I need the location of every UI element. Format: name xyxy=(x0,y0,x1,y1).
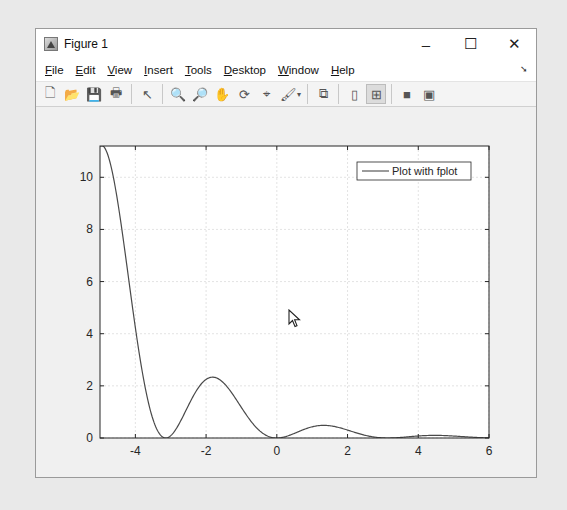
menu-mnemonic: H xyxy=(331,64,339,76)
toolbar-separator xyxy=(162,84,163,104)
y-tick-label: 4 xyxy=(86,327,93,341)
toolbar-separator xyxy=(131,84,132,104)
show-plot-tools-icon[interactable]: ⊞ xyxy=(366,84,386,104)
data-cursor-icon[interactable]: ⌖ xyxy=(256,84,276,104)
toolbar-separator xyxy=(338,84,339,104)
legend[interactable]: Plot with fplot xyxy=(357,162,471,180)
axes[interactable]: -4-202460246810Plot with fplot xyxy=(36,107,536,477)
window-controls: – ☐ ✕ xyxy=(404,29,536,59)
x-tick-label: 6 xyxy=(486,444,493,458)
menu-file[interactable]: File xyxy=(45,64,64,76)
menu-label: elp xyxy=(339,64,354,76)
menu-help[interactable]: Help xyxy=(331,64,355,76)
figure-canvas[interactable]: -4-202460246810Plot with fplot xyxy=(36,107,536,477)
print-figure-icon[interactable]: 🖶 xyxy=(106,84,126,104)
menu-label: ile xyxy=(52,64,64,76)
y-tick-label: 2 xyxy=(86,379,93,393)
y-tick-label: 0 xyxy=(86,431,93,445)
menu-insert[interactable]: Insert xyxy=(144,64,173,76)
close-button[interactable]: ✕ xyxy=(492,29,536,59)
title-bar[interactable]: Figure 1 – ☐ ✕ xyxy=(36,29,536,59)
menu-mnemonic: V xyxy=(107,64,114,76)
menu-tools[interactable]: Tools xyxy=(185,64,212,76)
menu-view[interactable]: View xyxy=(107,64,132,76)
menu-window[interactable]: Window xyxy=(278,64,319,76)
dropdown-arrow-icon[interactable]: ▾ xyxy=(297,90,301,99)
x-tick-label: 4 xyxy=(415,444,422,458)
menu-edit[interactable]: Edit xyxy=(76,64,96,76)
menu-desktop[interactable]: Desktop xyxy=(224,64,266,76)
new-figure-icon[interactable]: 🗋 xyxy=(40,84,60,104)
link-plot-icon[interactable]: ⧉ xyxy=(313,84,333,104)
menu-label: dit xyxy=(83,64,95,76)
figure-toolbar: 🗋📂💾🖶↖🔍🔎✋⟳⌖🖌▾⧉▯⊞■▣ xyxy=(36,81,536,107)
maximize-button[interactable]: ☐ xyxy=(448,29,492,59)
toolbar-separator xyxy=(391,84,392,104)
legend-icon[interactable]: ▣ xyxy=(419,84,439,104)
pan-icon[interactable]: ✋ xyxy=(212,84,232,104)
edit-plot-icon[interactable]: ↖ xyxy=(137,84,157,104)
menu-mnemonic: D xyxy=(224,64,232,76)
menu-bar: File Edit View Insert Tools Desktop Wind… xyxy=(36,59,536,81)
colorbar-icon[interactable]: ■ xyxy=(397,84,417,104)
zoom-in-icon[interactable]: 🔍 xyxy=(168,84,188,104)
hide-plot-tools-icon[interactable]: ▯ xyxy=(344,84,364,104)
y-tick-label: 6 xyxy=(86,275,93,289)
menu-label: esktop xyxy=(232,64,266,76)
x-tick-label: 0 xyxy=(273,444,280,458)
dock-arrow-icon[interactable]: ➘ xyxy=(520,64,528,74)
rotate-3d-icon[interactable]: ⟳ xyxy=(234,84,254,104)
mouse-pointer-icon xyxy=(288,309,302,329)
brush-icon[interactable]: 🖌 xyxy=(278,84,298,104)
y-tick-label: 10 xyxy=(80,170,94,184)
y-tick-label: 8 xyxy=(86,222,93,236)
figure-window: Figure 1 – ☐ ✕ File Edit View Insert Too… xyxy=(35,28,537,478)
x-tick-label: 2 xyxy=(344,444,351,458)
menu-mnemonic: W xyxy=(278,64,289,76)
zoom-out-icon[interactable]: 🔎 xyxy=(190,84,210,104)
minimize-button[interactable]: – xyxy=(404,29,448,59)
menu-label: ools xyxy=(191,64,212,76)
menu-label: nsert xyxy=(147,64,173,76)
matlab-figure-icon xyxy=(44,37,58,51)
x-tick-label: -4 xyxy=(130,444,141,458)
legend-label: Plot with fplot xyxy=(392,165,457,177)
menu-label: iew xyxy=(115,64,132,76)
plot-background xyxy=(100,146,489,438)
menu-mnemonic: F xyxy=(45,64,52,76)
window-title: Figure 1 xyxy=(64,37,108,51)
toolbar-separator xyxy=(307,84,308,104)
open-file-icon[interactable]: 📂 xyxy=(62,84,82,104)
menu-label: indow xyxy=(289,64,319,76)
x-tick-label: -2 xyxy=(201,444,212,458)
save-figure-icon[interactable]: 💾 xyxy=(84,84,104,104)
